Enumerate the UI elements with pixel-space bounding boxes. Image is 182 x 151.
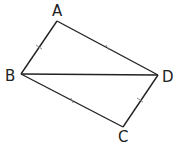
vertex-label-c: C	[118, 128, 128, 146]
vertex-label-d: D	[162, 68, 174, 86]
vertex-label-a: A	[52, 2, 63, 20]
vertex-label-b: B	[5, 67, 15, 85]
geometry-diagram: A B C D	[0, 0, 182, 151]
edge-cd	[123, 75, 158, 127]
diagonal-bd	[21, 74, 158, 75]
